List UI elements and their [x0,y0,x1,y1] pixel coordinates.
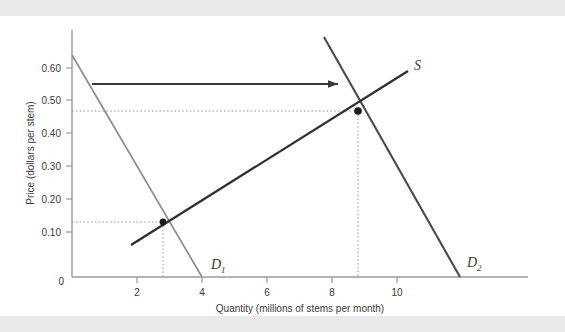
equilibrium-point-new [354,107,362,115]
x-axis-ticks [137,277,397,283]
y-tick-label-010: 0.10 [42,227,62,238]
demand-shift-arrow [92,80,338,88]
y-axis-ticks [66,68,72,232]
y-tick-label-060: 0.60 [42,63,62,74]
y-tick-label-030: 0.30 [42,161,62,172]
supply-demand-chart: 0.60 0.50 0.40 0.30 0.20 0.10 0 2 4 6 8 … [8,16,557,316]
curve-label-d2-subscript: 2 [477,263,482,273]
curve-label-d1-subscript: 1 [221,265,226,275]
origin-label: 0 [58,276,64,287]
x-tick-label-2: 2 [134,287,140,298]
page-band-bottom [0,316,565,332]
x-tick-label-10: 10 [391,287,403,298]
curve-label-s: S [414,58,421,73]
y-tick-label-020: 0.20 [42,194,62,205]
chart-figure: 0.60 0.50 0.40 0.30 0.20 0.10 0 2 4 6 8 … [8,16,557,316]
equilibrium-point-original [160,219,167,226]
curve-label-d2: D [466,255,477,270]
guidelines [72,111,358,277]
x-tick-label-6: 6 [264,287,270,298]
y-tick-label-050: 0.50 [42,95,62,106]
x-tick-label-8: 8 [329,287,335,298]
supply-curve-s [131,71,408,245]
demand-curve-d2 [324,37,460,277]
page-band-top [0,0,565,16]
x-axis-title: Quantity (millions of stems per month) [216,303,384,314]
figure-page: 0.60 0.50 0.40 0.30 0.20 0.10 0 2 4 6 8 … [0,0,565,332]
x-tick-label-4: 4 [199,287,205,298]
y-tick-label-040: 0.40 [42,128,62,139]
demand-curve-d1 [72,55,202,277]
y-axis-title: Price (dollars per stem) [25,101,36,204]
curve-label-d1: D [210,257,221,272]
